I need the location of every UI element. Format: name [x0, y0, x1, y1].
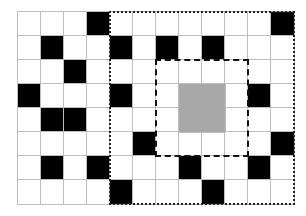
grid-cell [63, 131, 88, 157]
filled-cell [132, 131, 157, 157]
grid-cell [86, 83, 111, 109]
grid-cell [63, 35, 88, 61]
grid-cell [109, 155, 134, 181]
filled-cell [17, 83, 42, 109]
grid-cell [17, 155, 42, 181]
grid-cell [40, 83, 65, 109]
grid-cell [224, 131, 249, 157]
filled-cell [86, 11, 111, 37]
filled-cell [247, 83, 272, 109]
grid-cell [86, 131, 111, 157]
grid-cell [132, 107, 157, 133]
grid-cell [17, 35, 42, 61]
grid-cell [178, 131, 203, 157]
grid-cell [224, 179, 249, 205]
grid-cell [17, 59, 42, 85]
grid-cell [155, 131, 180, 157]
grid-cell [155, 83, 180, 109]
grid-cell [247, 131, 272, 157]
grid-cell [224, 11, 249, 37]
grid-cell [63, 155, 88, 181]
filled-cell [155, 35, 180, 61]
grid-cell [270, 155, 295, 181]
grid-cell [270, 35, 295, 61]
grid-cell [178, 59, 203, 85]
grid-cell [63, 11, 88, 37]
filled-cell [109, 179, 134, 205]
grid-cell [132, 83, 157, 109]
grid-cell [109, 107, 134, 133]
filled-cell [63, 107, 88, 133]
grid-cell [109, 11, 134, 37]
grid-cell [178, 11, 203, 37]
grid-cell [86, 107, 111, 133]
grid-cell [224, 83, 249, 109]
grid-cell [224, 59, 249, 85]
filled-cell [270, 11, 295, 37]
grid-cell [132, 179, 157, 205]
grid-cell [17, 131, 42, 157]
grid-cell [224, 107, 249, 133]
grid-cell [109, 59, 134, 85]
grid-cell [247, 59, 272, 85]
grid-cell [17, 179, 42, 205]
grid-cell [247, 107, 272, 133]
grid-cell [201, 155, 226, 181]
grid-cell [17, 107, 42, 133]
grid-cell [201, 131, 226, 157]
grid-cell [270, 83, 295, 109]
grid-cell [109, 131, 134, 157]
grid-cell [132, 11, 157, 37]
grid-cell [224, 155, 249, 181]
filled-cell [40, 35, 65, 61]
grid-cell [132, 35, 157, 61]
filled-cell [86, 155, 111, 181]
filled-cell [178, 155, 203, 181]
grid-cell [270, 59, 295, 85]
grid-cell [86, 179, 111, 205]
grid-cell [40, 131, 65, 157]
grid-cell [247, 35, 272, 61]
grid-cell [201, 59, 226, 85]
filled-cell [201, 179, 226, 205]
grid-cell [270, 179, 295, 205]
grid-cell [17, 11, 42, 37]
grid-cell [40, 11, 65, 37]
grid-cell [155, 179, 180, 205]
grid-cell [201, 11, 226, 37]
filled-cell [247, 155, 272, 181]
grid-cell [132, 155, 157, 181]
grid-cell [63, 83, 88, 109]
grid-cell [155, 11, 180, 37]
grid-cell [178, 179, 203, 205]
grid-cell [224, 35, 249, 61]
grid-cell [178, 35, 203, 61]
grid-cell [40, 179, 65, 205]
grid-cell [247, 11, 272, 37]
filled-cell [270, 131, 295, 157]
grid-cell [63, 179, 88, 205]
filled-cell [63, 59, 88, 85]
grid-cell [132, 59, 157, 85]
grid-cell [155, 107, 180, 133]
grid-cell [247, 179, 272, 205]
filled-cell [109, 83, 134, 109]
grid-cell [270, 107, 295, 133]
grid-cell [155, 155, 180, 181]
grid-cell [86, 59, 111, 85]
grid-cell [40, 59, 65, 85]
filled-cell [40, 155, 65, 181]
filled-cell [40, 107, 65, 133]
grid-cell [86, 35, 111, 61]
filled-cell [109, 35, 134, 61]
highlighted-region [178, 83, 226, 133]
grid-cell [155, 59, 180, 85]
filled-cell [201, 35, 226, 61]
